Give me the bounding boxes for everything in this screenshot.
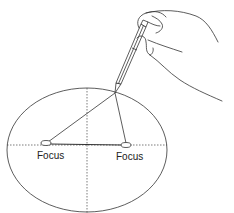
focus-right-pin bbox=[121, 143, 131, 148]
string-right-segment bbox=[115, 93, 126, 143]
focus-right-label: Focus bbox=[116, 151, 143, 162]
pencil-icon bbox=[115, 20, 148, 93]
string-between-foci bbox=[50, 144, 122, 145]
focus-left-pin bbox=[41, 141, 51, 146]
hand-icon bbox=[137, 11, 222, 101]
string-left-segment bbox=[48, 93, 115, 142]
ellipse-string-construction-diagram: Focus Focus bbox=[0, 0, 234, 213]
diagram-canvas: Focus Focus bbox=[0, 0, 234, 213]
focus-left-label: Focus bbox=[37, 150, 64, 161]
